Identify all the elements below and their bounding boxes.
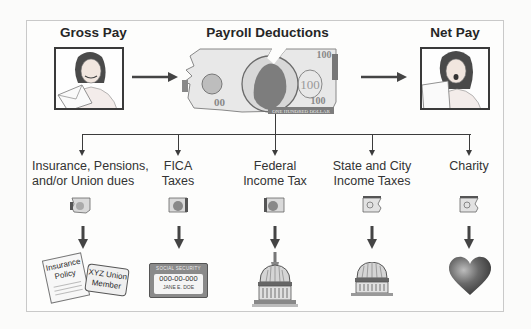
arrow-down-icon — [369, 150, 375, 156]
bill-center-denomination: 100 — [300, 77, 320, 92]
insurance-policy-document: Insurance Policy — [42, 252, 90, 303]
arrow-down-icon — [79, 150, 85, 156]
svg-text:00: 00 — [214, 96, 226, 108]
arrow-down-icon — [466, 150, 472, 156]
branch-drop — [372, 134, 373, 151]
bill-fragment-icon — [264, 196, 286, 214]
net-pay-portrait — [420, 47, 490, 110]
union-member-card: XYZ Union Member — [84, 263, 129, 297]
state-capitol-dome-icon — [350, 262, 394, 302]
branch-drop — [82, 134, 83, 151]
bill-fragment-icon — [458, 196, 480, 214]
insurance-union-documents: Insurance Policy XYZ Union Member — [40, 254, 140, 304]
net-pay-title: Net Pay — [425, 25, 485, 40]
deduction-label-fica: FICA Taxes — [148, 159, 208, 189]
bill-fragment-icon — [70, 196, 92, 214]
branch-drop — [469, 134, 470, 151]
woman-with-envelope-icon — [56, 49, 124, 110]
bill-fragment-icon — [167, 196, 189, 214]
deduction-label-insurance: Insurance, Pensions, and/or Union dues — [32, 159, 132, 189]
arrow-right-icon — [132, 72, 178, 82]
deduction-label-charity: Charity — [434, 159, 504, 174]
gross-pay-portrait — [54, 47, 124, 110]
gross-pay-title: Gross Pay — [60, 25, 120, 40]
branch-line — [82, 134, 471, 135]
arrow-down-icon — [270, 226, 280, 250]
bill-fragment-icon — [361, 196, 383, 214]
arrow-down-icon — [78, 226, 88, 250]
bill-caption: ONE HUNDRED DOLLAR — [272, 109, 330, 114]
payroll-deductions-title: Payroll Deductions — [200, 25, 335, 40]
torn-hundred-dollar-bill: 100 00 100 100 ONE HUNDRED DOLLAR — [182, 44, 338, 116]
deduction-label-federal: Federal Income Tax — [235, 159, 315, 189]
trunk-line — [275, 114, 276, 134]
branch-drop — [275, 134, 276, 151]
arrow-down-icon — [175, 150, 181, 156]
branch-drop — [178, 134, 179, 151]
heart-icon — [448, 256, 492, 296]
deduction-label-state-city: State and City Income Taxes — [327, 159, 417, 189]
arrow-down-icon — [464, 226, 474, 250]
woman-shocked-icon — [422, 49, 490, 110]
svg-text:100: 100 — [311, 95, 326, 106]
social-security-card: SOCIAL SECURITY 000-00-000 JANE E. DOE — [149, 263, 208, 298]
arrow-down-icon — [367, 226, 377, 250]
arrow-down-icon — [174, 226, 184, 250]
capitol-dome-icon — [252, 252, 298, 310]
arrow-down-icon — [272, 150, 278, 156]
svg-text:100: 100 — [317, 49, 332, 60]
arrow-right-icon — [361, 72, 407, 82]
